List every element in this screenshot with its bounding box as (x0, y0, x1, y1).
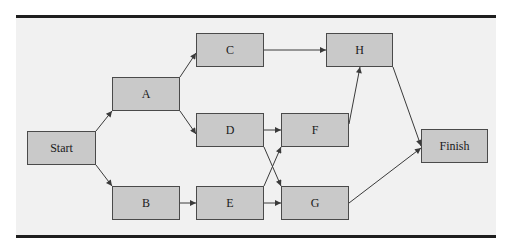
edge-a-c (180, 53, 196, 77)
node-label: G (311, 196, 320, 211)
node-h: H (326, 33, 393, 67)
node-label: D (226, 123, 235, 138)
node-d: D (196, 113, 264, 147)
node-f: F (281, 113, 349, 147)
node-label: A (142, 87, 151, 102)
edge-a-d (180, 111, 196, 134)
node-label: Finish (439, 139, 469, 154)
node-e: E (196, 186, 264, 220)
node-b: B (112, 186, 180, 220)
edge-start-a (96, 111, 112, 131)
node-label: B (142, 196, 150, 211)
node-c: C (196, 33, 264, 67)
edge-h-finish (393, 67, 421, 146)
edge-g-finish (349, 148, 421, 203)
node-g: G (281, 186, 349, 220)
node-start: Start (27, 131, 96, 165)
edge-start-b (96, 165, 112, 186)
node-label: C (226, 43, 234, 58)
node-finish: Finish (421, 129, 488, 163)
node-label: H (355, 43, 364, 58)
edge-f-h (349, 67, 360, 124)
node-a: A (112, 77, 180, 111)
node-label: E (226, 196, 233, 211)
node-label: F (312, 123, 319, 138)
node-label: Start (50, 141, 73, 156)
